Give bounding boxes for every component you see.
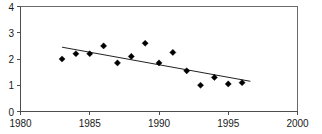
chart-canvas: 4 3 2 1 0 1980 1985 1990 1995 2000 bbox=[0, 0, 322, 134]
x-axis: 1980 1985 1990 1995 2000 bbox=[9, 112, 309, 130]
y-tick-label-1: 1 bbox=[8, 80, 14, 91]
data-point bbox=[170, 49, 176, 55]
y-axis: 4 3 2 1 0 bbox=[8, 2, 20, 118]
x-tick-label-1980: 1980 bbox=[9, 118, 32, 129]
data-point-group bbox=[59, 40, 245, 88]
data-point bbox=[184, 68, 190, 74]
data-point bbox=[142, 40, 148, 46]
x-tick-label-1990: 1990 bbox=[148, 118, 171, 129]
data-point bbox=[114, 60, 120, 66]
y-tick-label-4: 4 bbox=[8, 2, 14, 13]
y-tick-label-2: 2 bbox=[8, 54, 14, 65]
data-point bbox=[73, 51, 79, 57]
y-tick-label-0: 0 bbox=[8, 107, 14, 118]
x-tick-label-2000: 2000 bbox=[286, 118, 309, 129]
data-point bbox=[59, 56, 65, 62]
x-tick-label-1995: 1995 bbox=[217, 118, 240, 129]
x-tick-label-1985: 1985 bbox=[79, 118, 102, 129]
data-point bbox=[225, 81, 231, 87]
data-point bbox=[128, 53, 134, 59]
data-point bbox=[197, 82, 203, 88]
data-point bbox=[101, 43, 107, 49]
y-tick-label-3: 3 bbox=[8, 28, 14, 39]
scatter-chart: 4 3 2 1 0 1980 1985 1990 1995 2000 bbox=[0, 0, 322, 134]
